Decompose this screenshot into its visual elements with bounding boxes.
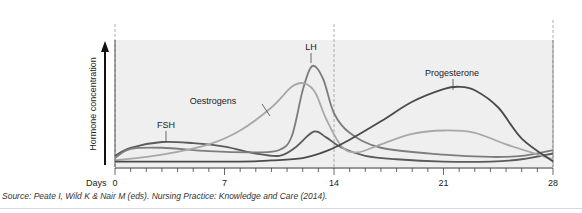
label-oestrogens: Oestrogens bbox=[190, 96, 237, 106]
y-axis-label: Hormone concentration bbox=[88, 57, 98, 151]
svg-text:7: 7 bbox=[222, 178, 227, 188]
svg-text:28: 28 bbox=[548, 178, 558, 188]
source-footnote: Source: Peate I, Wild K & Nair M (eds). … bbox=[2, 191, 327, 201]
label-fsh: FSH bbox=[157, 120, 175, 130]
svg-text:21: 21 bbox=[438, 178, 448, 188]
hormone-chart: Hormone concentration Days 07142128 FSHL… bbox=[0, 0, 582, 190]
y-axis-arrow-icon bbox=[101, 41, 109, 165]
x-axis-label: Days bbox=[86, 178, 107, 188]
divider bbox=[0, 208, 582, 209]
x-axis-tick-labels: 07142128 bbox=[112, 178, 558, 188]
label-progesterone: Progesterone bbox=[425, 68, 479, 78]
svg-text:0: 0 bbox=[112, 178, 117, 188]
label-lh: LH bbox=[305, 42, 317, 52]
svg-text:14: 14 bbox=[329, 178, 339, 188]
x-axis-ticks bbox=[115, 168, 553, 175]
